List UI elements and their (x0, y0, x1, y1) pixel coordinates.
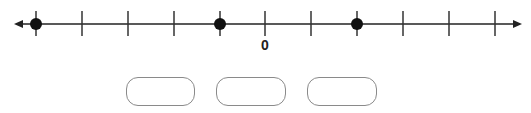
answer-box-2[interactable] (216, 77, 286, 106)
plotted-point (30, 18, 42, 30)
number-line (0, 0, 531, 70)
right-arrow-icon (513, 20, 522, 28)
plotted-point (351, 18, 363, 30)
plotted-point (214, 18, 226, 30)
zero-label: 0 (255, 37, 275, 53)
answer-box-3[interactable] (307, 77, 377, 106)
left-arrow-icon (14, 20, 23, 28)
answer-box-1[interactable] (126, 77, 195, 106)
